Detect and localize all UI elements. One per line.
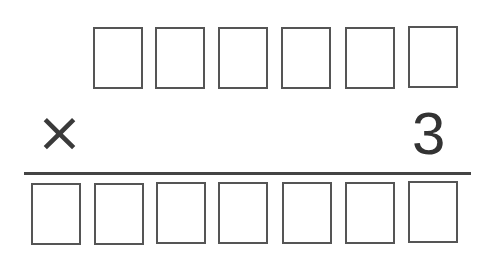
multiplicand-digit-box[interactable]: [155, 27, 205, 89]
product-digit-box[interactable]: [345, 182, 395, 244]
multiplicand-digit-box[interactable]: [408, 26, 458, 88]
product-digit-box[interactable]: [408, 181, 458, 243]
product-digit-box[interactable]: [31, 183, 81, 245]
multiplicand-digit-box[interactable]: [281, 27, 331, 89]
product-digit-box[interactable]: [156, 182, 206, 244]
answer-line: [24, 172, 471, 175]
product-digit-box[interactable]: [94, 183, 144, 245]
multiplier-digit: 3: [412, 104, 445, 164]
product-digit-box[interactable]: [218, 182, 268, 244]
multiply-sign: ×: [36, 104, 83, 160]
product-digit-box[interactable]: [282, 182, 332, 244]
multiplicand-digit-box[interactable]: [218, 27, 268, 89]
multiplicand-digit-box[interactable]: [93, 27, 143, 89]
multiplicand-digit-box[interactable]: [345, 27, 395, 89]
